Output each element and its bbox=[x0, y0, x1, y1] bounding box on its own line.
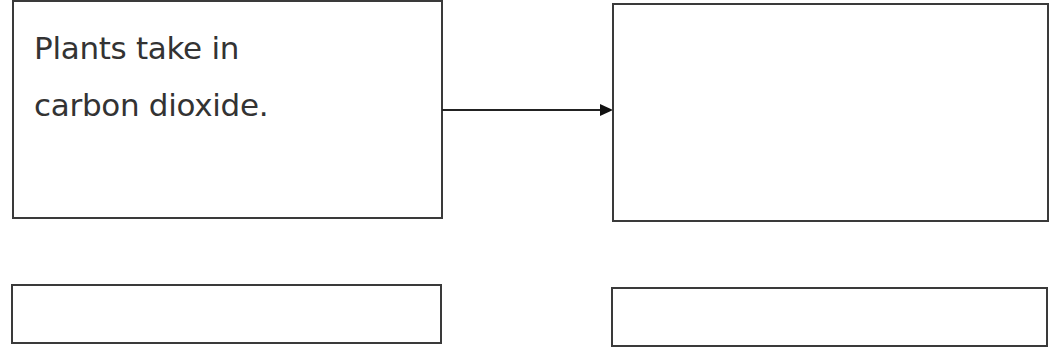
flow-box-4 bbox=[611, 287, 1048, 347]
flow-box-1-line-1: Plants take in bbox=[34, 20, 421, 77]
flow-box-1: Plants take in carbon dioxide. bbox=[12, 0, 443, 219]
flow-box-1-text: Plants take in carbon dioxide. bbox=[34, 20, 421, 134]
flow-box-2 bbox=[612, 3, 1049, 222]
arrow-right-icon bbox=[442, 104, 614, 116]
flow-box-3 bbox=[11, 284, 442, 344]
flow-box-1-line-2: carbon dioxide. bbox=[34, 77, 421, 134]
